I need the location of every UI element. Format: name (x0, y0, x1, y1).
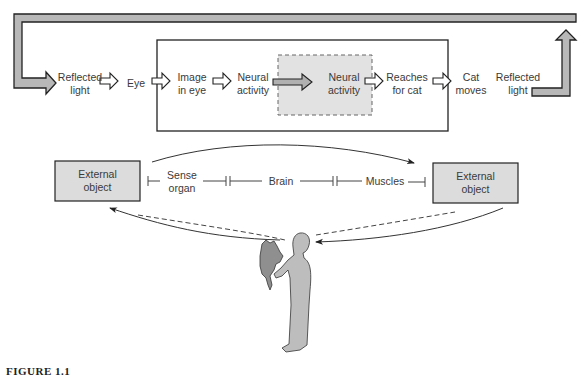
curve-arrow-top (152, 145, 414, 163)
step-neural-activity-2: Neural activity (322, 71, 366, 97)
label-line: light (494, 84, 542, 97)
figure-caption: FIGURE 1.1 (6, 365, 70, 375)
label-line: Reaches (384, 71, 430, 84)
sense-organ-label: Sense organ (160, 169, 204, 195)
label-line: Brain (262, 175, 300, 188)
label-line: for cat (384, 84, 430, 97)
label-line: moves (453, 84, 489, 97)
step-image-in-eye: Image in eye (172, 71, 212, 97)
label-line: External (433, 170, 518, 183)
right-external-object-label: External object (433, 170, 518, 196)
label-line: object (433, 183, 518, 196)
left-external-object-label: External object (55, 168, 140, 194)
step-reflected-light-out: Reflected light (494, 71, 542, 97)
step-reaches-for-cat: Reaches for cat (384, 71, 430, 97)
label-line: activity (232, 84, 274, 97)
sight-line-left (138, 215, 285, 240)
step-neural-activity-1: Neural activity (232, 71, 274, 97)
label-line: Eye (122, 77, 150, 90)
step-reflected-light-in: Reflected light (56, 71, 104, 97)
person-holding-cat-illustration (260, 233, 311, 352)
label-line: light (56, 84, 104, 97)
step-cat-moves: Cat moves (453, 71, 489, 97)
label-line: External (55, 168, 140, 181)
label-line: Image (172, 71, 212, 84)
brain-label: Brain (262, 175, 300, 188)
label-line: activity (322, 84, 366, 97)
label-line: in eye (172, 84, 212, 97)
label-line: Sense (160, 169, 204, 182)
muscles-label: Muscles (362, 175, 408, 188)
label-line: organ (160, 182, 204, 195)
label-line: Muscles (362, 175, 408, 188)
label-line: object (55, 181, 140, 194)
label-line: Reflected (56, 71, 104, 84)
label-line: Cat (453, 71, 489, 84)
label-line: Neural (322, 71, 366, 84)
sight-line-right (316, 212, 455, 235)
step-eye: Eye (122, 77, 150, 90)
label-line: Neural (232, 71, 274, 84)
curve-arrow-right (316, 208, 503, 242)
label-line: Reflected (494, 71, 542, 84)
